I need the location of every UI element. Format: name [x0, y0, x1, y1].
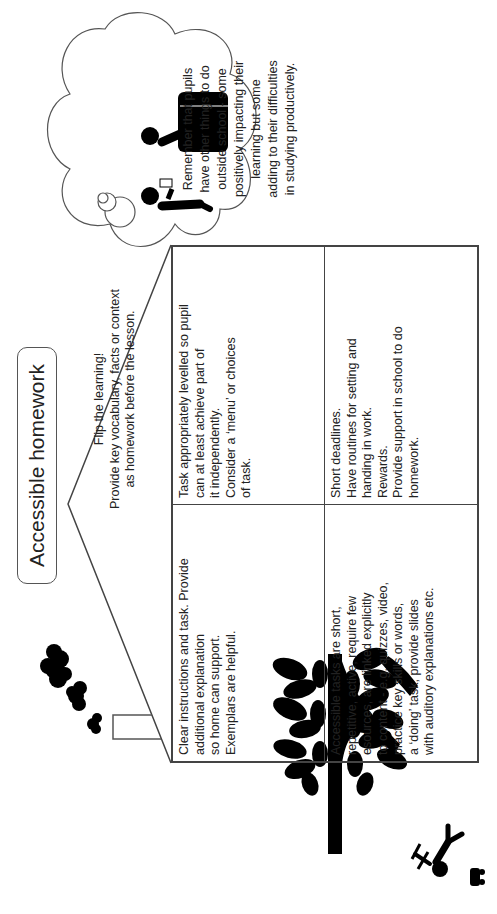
house-body-grid: Clear instructions and task. Provide add…	[171, 245, 479, 763]
thought-line: learning but some	[248, 29, 265, 229]
thought-line: outside school - some	[214, 29, 231, 229]
thought-line: Remember that pupils	[180, 29, 197, 229]
cell-task-levelled: Task appropriately levelled so pupil can…	[173, 247, 325, 504]
roof-line-1: Flip the learning!	[92, 274, 108, 524]
smoke-icon	[40, 644, 102, 734]
thought-bubble-text: Remember that pupils have other things t…	[180, 29, 299, 229]
thought-line: have other things to do	[197, 29, 214, 229]
thought-line: adding to their difficulties	[265, 29, 282, 229]
cell-clear-instructions: Clear instructions and task. Provide add…	[173, 504, 325, 761]
roof-text: Flip the learning! Provide key vocabular…	[92, 274, 139, 524]
roof-line-2: Provide key vocabulary, facts or context	[108, 274, 124, 524]
child-playing-icon	[412, 826, 462, 877]
roof-line-3: as homework before the lesson.	[123, 274, 139, 524]
thought-line: positively impacting their	[231, 29, 248, 229]
cell-short-deadlines: Short deadlines. Have routines for setti…	[325, 247, 477, 504]
accessible-homework-diagram: Accessible homework	[0, 0, 497, 914]
toy-car-icon	[470, 868, 485, 886]
cell-accessible-tasks: Accessible tasks are short, repetitive, …	[325, 504, 477, 761]
thought-line: in studying productively.	[282, 29, 299, 229]
